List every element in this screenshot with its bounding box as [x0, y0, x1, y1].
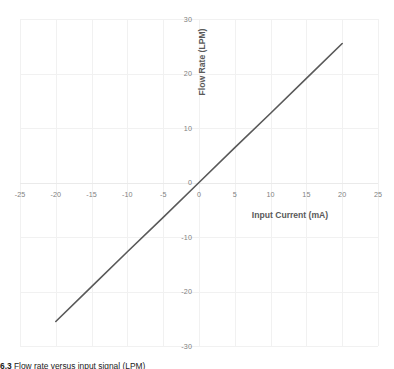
y-tick--10: -10	[166, 233, 192, 242]
x-tick-20: 20	[322, 190, 362, 199]
figure-caption-text: Flow rate versus input signal (LPM)	[14, 361, 145, 369]
chart-figure: -25-20-15-10-50510152025 3020100-10-20-3…	[0, 0, 394, 369]
y-tick--30: -30	[166, 342, 192, 351]
x-tick-10: 10	[251, 190, 291, 199]
y-tick-10: 10	[166, 124, 192, 133]
x-axis-title: Input Current (mA)	[215, 210, 365, 220]
y-axis-title: Flow Rate (LPM)	[197, 2, 209, 122]
x-tick--5: -5	[143, 190, 183, 199]
figure-caption: 6.3 Flow rate versus input signal (LPM)	[0, 361, 394, 369]
x-tick-0: 0	[179, 190, 219, 199]
y-tick-20: 20	[166, 69, 192, 78]
y-tick--20: -20	[166, 287, 192, 296]
gridline-x-25	[378, 19, 379, 346]
y-tick-30: 30	[166, 15, 192, 24]
x-tick--25: -25	[0, 190, 40, 199]
figure-caption-number: 6.3	[0, 361, 12, 369]
x-tick--20: -20	[36, 190, 76, 199]
x-tick-15: 15	[286, 190, 326, 199]
y-tick-0: 0	[166, 178, 192, 187]
x-tick-5: 5	[215, 190, 255, 199]
x-tick--10: -10	[107, 190, 147, 199]
x-tick--15: -15	[72, 190, 112, 199]
x-tick-25: 25	[358, 190, 394, 199]
gridline-y--30	[20, 346, 378, 347]
